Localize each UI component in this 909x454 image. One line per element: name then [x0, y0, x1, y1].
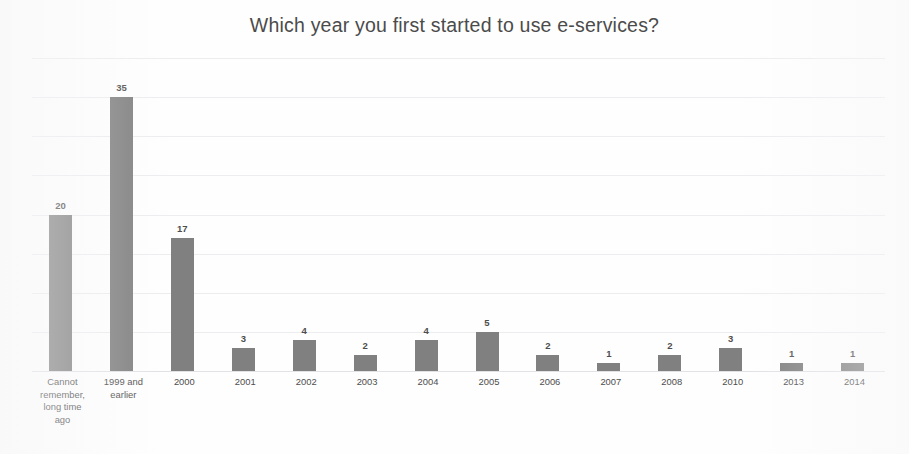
bar-group[interactable]: 3: [702, 58, 759, 371]
bar-value-label: 3: [215, 333, 272, 344]
category-label: 2010: [701, 376, 764, 389]
bar[interactable]: [658, 355, 681, 371]
category-label-line: 2001: [214, 376, 277, 389]
bar-value-label: 2: [337, 340, 394, 351]
category-label-line: remember,: [31, 389, 94, 402]
bar-group[interactable]: 3: [215, 58, 272, 371]
bar-group[interactable]: 2: [337, 58, 394, 371]
bar[interactable]: [232, 348, 255, 371]
bar[interactable]: [719, 348, 742, 371]
bar-group[interactable]: 4: [276, 58, 333, 371]
category-label-line: Cannot: [31, 376, 94, 389]
bar-value-label: 35: [93, 82, 150, 93]
category-label-line: 2000: [153, 376, 216, 389]
category-label: 2002: [275, 376, 338, 389]
category-label-line: earlier: [92, 389, 155, 402]
category-label-line: 2005: [457, 376, 520, 389]
bar-group[interactable]: 17: [154, 58, 211, 371]
bar-value-label: 5: [459, 317, 516, 328]
bar-group[interactable]: 2: [519, 58, 576, 371]
category-label-line: 2002: [275, 376, 338, 389]
bar[interactable]: [536, 355, 559, 371]
bar-group[interactable]: 5: [459, 58, 516, 371]
bar[interactable]: [293, 340, 316, 371]
category-label: 2007: [579, 376, 642, 389]
bar-group[interactable]: 1: [580, 58, 637, 371]
bar-chart: Which year you first started to use e-se…: [0, 0, 909, 454]
category-label-line: 2008: [640, 376, 703, 389]
category-label-line: 2004: [397, 376, 460, 389]
category-label-line: 2014: [823, 376, 886, 389]
category-label: 2000: [153, 376, 216, 389]
category-label: 1999 andearlier: [92, 376, 155, 401]
bar[interactable]: [110, 97, 133, 371]
category-label-line: long time: [31, 401, 94, 414]
category-label-line: 2006: [518, 376, 581, 389]
category-label: 2003: [336, 376, 399, 389]
chart-title: Which year you first started to use e-se…: [0, 14, 909, 37]
bar[interactable]: [476, 332, 499, 371]
category-label-line: 2003: [336, 376, 399, 389]
bars-layer: 20351734245212311: [32, 58, 885, 371]
bar[interactable]: [780, 363, 803, 371]
category-label: 2014: [823, 376, 886, 389]
bar[interactable]: [415, 340, 438, 371]
bar-value-label: 17: [154, 223, 211, 234]
bar-value-label: 1: [580, 348, 637, 359]
bar-value-label: 3: [702, 333, 759, 344]
category-label-line: ago: [31, 414, 94, 427]
bar[interactable]: [49, 215, 72, 372]
bar[interactable]: [171, 238, 194, 371]
category-label: 2013: [762, 376, 825, 389]
bar-value-label: 4: [398, 325, 455, 336]
category-label: 2006: [518, 376, 581, 389]
bar-group[interactable]: 1: [763, 58, 820, 371]
bar-group[interactable]: 20: [32, 58, 89, 371]
bar-value-label: 1: [763, 348, 820, 359]
category-label-line: 1999 and: [92, 376, 155, 389]
category-label: 2005: [457, 376, 520, 389]
bar-value-label: 20: [32, 200, 89, 211]
category-label-line: 2010: [701, 376, 764, 389]
bar-group[interactable]: 2: [641, 58, 698, 371]
category-label: Cannotremember,long timeago: [31, 376, 94, 426]
category-label: 2004: [397, 376, 460, 389]
category-label-line: 2007: [579, 376, 642, 389]
bar-group[interactable]: 35: [93, 58, 150, 371]
bar[interactable]: [597, 363, 620, 371]
category-label: 2001: [214, 376, 277, 389]
bar[interactable]: [841, 363, 864, 371]
category-label: 2008: [640, 376, 703, 389]
bar-value-label: 1: [824, 348, 881, 359]
bar-value-label: 2: [641, 340, 698, 351]
bar-value-label: 2: [519, 340, 576, 351]
bar-group[interactable]: 1: [824, 58, 881, 371]
bar[interactable]: [354, 355, 377, 371]
bar-value-label: 4: [276, 325, 333, 336]
gridline: [32, 371, 885, 372]
category-label-line: 2013: [762, 376, 825, 389]
bar-group[interactable]: 4: [398, 58, 455, 371]
